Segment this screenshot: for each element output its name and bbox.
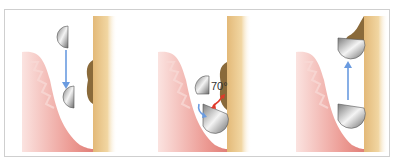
curette-blade-end: [63, 86, 74, 108]
insertion-illustration: [0, 0, 132, 164]
gingiva: [22, 52, 93, 152]
curette-blade-bottom: [338, 104, 365, 128]
calculus-deposit: [87, 60, 93, 104]
gingiva: [296, 52, 364, 152]
panel-angulation: 70°: [131, 0, 259, 164]
curette-blade-start: [57, 26, 68, 48]
tooth-surface: [93, 16, 117, 152]
angulation-illustration: [131, 0, 265, 164]
curette-blade-initial: [195, 76, 209, 94]
curette-blade-top: [338, 38, 365, 59]
angle-label: 70°: [211, 80, 228, 92]
calculus-removed: [346, 16, 364, 40]
panel-insertion: [0, 0, 128, 164]
panel-working-stroke: [262, 0, 390, 164]
working-stroke-illustration: [262, 0, 394, 164]
gingiva: [158, 52, 227, 152]
